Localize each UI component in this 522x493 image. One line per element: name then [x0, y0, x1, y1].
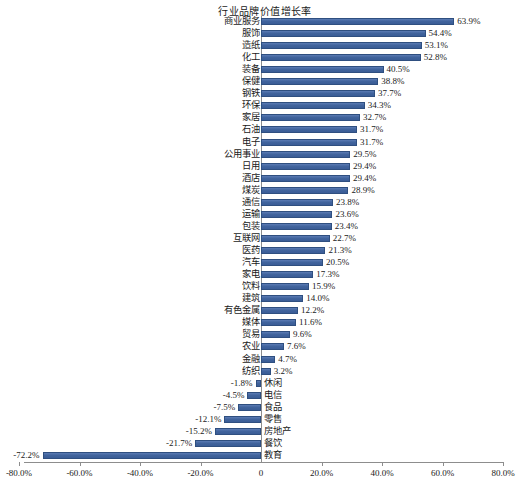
bar[interactable]	[261, 18, 454, 25]
value-label: 23.4%	[335, 221, 358, 232]
bar[interactable]	[261, 211, 332, 218]
x-axis-tick-label: 40.0%	[347, 468, 417, 478]
value-label: 21.3%	[328, 245, 351, 256]
category-label: 家电	[242, 269, 260, 280]
category-label: 休闲	[264, 378, 282, 389]
bar-row: 纺织3.2%	[24, 366, 503, 377]
category-label: 包装	[242, 221, 260, 232]
bar-row: 教育-72.2%	[24, 450, 503, 461]
value-label: -21.7%	[166, 438, 192, 449]
bar[interactable]	[261, 187, 348, 194]
category-label: 商业服务	[224, 16, 260, 27]
bar[interactable]	[261, 30, 426, 37]
value-label: 7.6%	[287, 341, 306, 352]
bar-row: 造纸53.1%	[24, 40, 503, 51]
bar[interactable]	[261, 199, 333, 206]
bar[interactable]	[261, 235, 330, 242]
bar[interactable]	[261, 175, 350, 182]
value-label: 29.5%	[353, 149, 376, 160]
category-label: 运输	[242, 209, 260, 220]
x-axis-tick-mark	[322, 462, 323, 466]
bar-row: 家电17.3%	[24, 269, 503, 280]
bar[interactable]	[261, 42, 422, 49]
bar-row: 农业7.6%	[24, 341, 503, 352]
category-label: 教育	[264, 450, 282, 461]
bar[interactable]	[261, 78, 378, 85]
category-label: 纺织	[242, 366, 260, 377]
brand-value-growth-bar-chart: 行业品牌价值增长率 -80.0%-60.0%-40.0%-20.0%020.0%…	[0, 0, 522, 493]
value-label: 12.2%	[301, 305, 324, 316]
bar[interactable]	[261, 247, 325, 254]
category-label: 家居	[242, 112, 260, 123]
bar[interactable]	[261, 139, 357, 146]
value-label: 31.7%	[360, 137, 383, 148]
bar-row: 电子31.7%	[24, 137, 503, 148]
category-label: 公用事业	[224, 149, 260, 160]
bar-row: 建筑14.0%	[24, 293, 503, 304]
category-label: 酒店	[242, 173, 260, 184]
bar[interactable]	[261, 295, 303, 302]
value-label: 29.4%	[353, 161, 376, 172]
x-axis-tick-mark	[503, 462, 504, 466]
bar[interactable]	[215, 428, 261, 435]
bar[interactable]	[261, 331, 290, 338]
bar[interactable]	[261, 151, 350, 158]
bar-row: 保健38.8%	[24, 76, 503, 87]
value-label: 4.7%	[278, 354, 297, 365]
bar-row: 酒店29.4%	[24, 173, 503, 184]
bar[interactable]	[261, 54, 421, 61]
bar[interactable]	[261, 343, 284, 350]
category-label: 钢铁	[242, 88, 260, 99]
bar[interactable]	[261, 102, 365, 109]
bar-row: 房地产-15.2%	[24, 426, 503, 437]
bar[interactable]	[195, 440, 261, 447]
category-label: 石油	[242, 124, 260, 135]
value-label: -12.1%	[195, 414, 221, 425]
value-label: 53.1%	[425, 40, 448, 51]
x-axis-tick-label: -20.0%	[166, 468, 236, 478]
bar[interactable]	[261, 66, 384, 73]
category-label: 日用	[242, 161, 260, 172]
bar[interactable]	[261, 90, 375, 97]
bar[interactable]	[261, 307, 298, 314]
x-axis-tick-label: 80.0%	[468, 468, 522, 478]
bar[interactable]	[261, 163, 350, 170]
bar[interactable]	[261, 368, 271, 375]
bar-row: 金融4.7%	[24, 354, 503, 365]
bar[interactable]	[43, 452, 261, 459]
bar-row: 饮料15.9%	[24, 281, 503, 292]
value-label: 31.7%	[360, 124, 383, 135]
bar[interactable]	[261, 223, 332, 230]
bar[interactable]	[261, 114, 360, 121]
bar[interactable]	[261, 126, 357, 133]
category-label: 建筑	[242, 293, 260, 304]
category-label: 医药	[242, 245, 260, 256]
bar[interactable]	[261, 283, 309, 290]
category-label: 媒体	[242, 317, 260, 328]
bar[interactable]	[261, 271, 313, 278]
x-axis-tick-mark	[382, 462, 383, 466]
bar-row: 煤炭28.9%	[24, 185, 503, 196]
category-label: 汽车	[242, 257, 260, 268]
bar-row: 装备40.5%	[24, 64, 503, 75]
bar-row: 化工52.8%	[24, 52, 503, 63]
bar-row: 餐饮-21.7%	[24, 438, 503, 449]
category-label: 环保	[242, 100, 260, 111]
bar[interactable]	[247, 392, 261, 399]
value-label: 37.7%	[378, 88, 401, 99]
value-label: 23.6%	[335, 209, 358, 220]
bar[interactable]	[261, 319, 296, 326]
x-axis-tick-mark	[201, 462, 202, 466]
bar[interactable]	[261, 356, 275, 363]
bar-row: 环保34.3%	[24, 100, 503, 111]
bar[interactable]	[261, 259, 323, 266]
value-label: 40.5%	[387, 64, 410, 75]
category-label: 通信	[242, 197, 260, 208]
bar-row: 食品-7.5%	[24, 402, 503, 413]
bar[interactable]	[238, 404, 261, 411]
category-label: 房地产	[264, 426, 291, 437]
x-axis-tick-label: 60.0%	[408, 468, 478, 478]
bar[interactable]	[256, 380, 261, 387]
plot-area: -80.0%-60.0%-40.0%-20.0%020.0%40.0%60.0%…	[24, 16, 503, 462]
bar[interactable]	[224, 416, 261, 423]
